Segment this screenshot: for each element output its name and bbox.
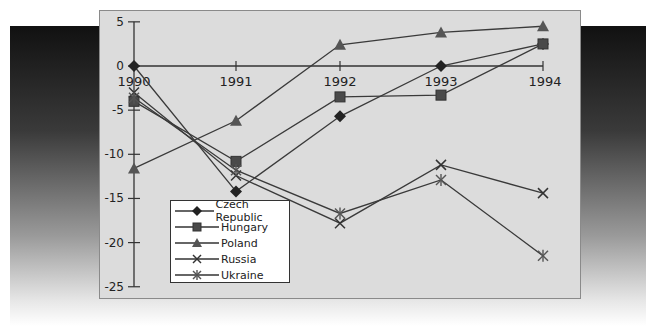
y-tick-label: -25 bbox=[104, 280, 124, 294]
legend-label: Russia bbox=[221, 253, 256, 266]
square-marker-icon bbox=[175, 220, 219, 234]
x-tick-label: 1992 bbox=[323, 74, 356, 89]
legend-item: Czech Republic bbox=[175, 203, 289, 219]
chart-legend: Czech RepublicHungaryPolandRussiaUkraine bbox=[170, 200, 290, 283]
y-tick-label: 5 bbox=[116, 15, 124, 29]
y-tick-label: 0 bbox=[116, 59, 124, 73]
legend-label: Ukraine bbox=[221, 269, 263, 282]
series-hungary bbox=[129, 39, 548, 166]
diamond-marker-icon bbox=[175, 204, 214, 218]
asterisk-marker-icon bbox=[175, 268, 219, 282]
line-chart: 50-5-10-15-20-2519901991199219931994 bbox=[0, 0, 653, 336]
x-tick-label: 1991 bbox=[219, 74, 252, 89]
legend-item: Ukraine bbox=[175, 267, 289, 283]
y-tick-label: -10 bbox=[104, 147, 124, 161]
x-tick-label: 1990 bbox=[117, 74, 150, 89]
y-tick-label: -5 bbox=[112, 103, 124, 117]
legend-label: Poland bbox=[221, 237, 258, 250]
y-tick-label: -15 bbox=[104, 191, 124, 205]
series-czech-republic bbox=[128, 38, 549, 197]
legend-item: Russia bbox=[175, 251, 289, 267]
x-marker-icon bbox=[175, 252, 219, 266]
legend-item: Poland bbox=[175, 235, 289, 251]
triangle-marker-icon bbox=[175, 236, 219, 250]
y-tick-label: -20 bbox=[104, 236, 124, 250]
x-tick-label: 1993 bbox=[424, 74, 457, 89]
x-tick-label: 1994 bbox=[528, 74, 561, 89]
legend-label: Hungary bbox=[221, 221, 268, 234]
